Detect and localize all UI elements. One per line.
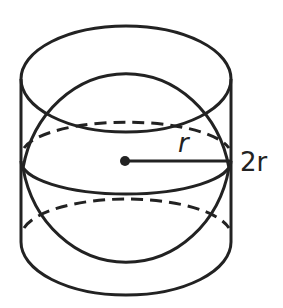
center-dot	[120, 156, 130, 166]
hidden-upper-dashed-arc	[24, 122, 229, 148]
sphere-outline	[23, 74, 229, 263]
cylinder-top-ellipse	[21, 26, 231, 132]
height-label: 2r	[240, 147, 268, 177]
cylinder-bottom-arc	[21, 242, 231, 295]
sphere-in-cylinder-diagram: r 2r	[0, 0, 283, 308]
radius-label: r	[178, 128, 191, 158]
sphere-equator-front	[21, 161, 231, 194]
hidden-lower-dashed-arc	[24, 199, 229, 228]
